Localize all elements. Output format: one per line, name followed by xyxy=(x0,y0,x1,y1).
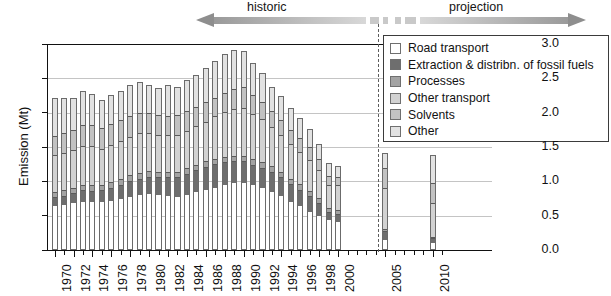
bar-segment-1998-1 xyxy=(316,203,322,215)
bar-segment-1977-0 xyxy=(118,199,124,250)
bar-segment-2005-4 xyxy=(382,168,388,189)
bar-segment-1986-5 xyxy=(203,68,209,102)
bar-1985 xyxy=(193,75,199,250)
bar-segment-1972-3 xyxy=(70,150,76,187)
bar-segment-1970-2 xyxy=(52,192,58,197)
bar-1982 xyxy=(165,85,171,250)
bar-segment-1979-1 xyxy=(137,179,143,195)
chart-figure: historic projection Emission (Mt) Road t… xyxy=(0,0,611,296)
bar-segment-1990-5 xyxy=(241,51,247,87)
y-axis-tick-label: 2.0 xyxy=(519,105,559,119)
bar-segment-2010-2 xyxy=(430,237,436,238)
bar-segment-1993-2 xyxy=(269,166,275,171)
bar-segment-1982-3 xyxy=(165,135,171,172)
bar-segment-1990-4 xyxy=(241,87,247,108)
bar-segment-1995-2 xyxy=(288,179,294,184)
bar-segment-1984-0 xyxy=(184,195,190,250)
bar-segment-1984-4 xyxy=(184,111,190,130)
historic-label: historic xyxy=(247,0,287,14)
bar-segment-1994-4 xyxy=(278,120,284,135)
bar-segment-1999-0 xyxy=(326,220,332,250)
bar-segment-1996-1 xyxy=(297,190,303,206)
bar-segment-1988-1 xyxy=(222,162,228,185)
bar-segment-1972-4 xyxy=(70,130,76,151)
bar-segment-1977-1 xyxy=(118,185,124,199)
legend-item-other: Other xyxy=(390,123,603,140)
x-axis-tick-label: 2010 xyxy=(438,264,452,292)
bar-segment-1973-4 xyxy=(80,125,86,146)
bar-segment-1999-1 xyxy=(326,212,332,220)
bar-segment-1990-1 xyxy=(241,161,247,182)
bar-segment-1984-2 xyxy=(184,168,190,173)
bar-segment-1973-3 xyxy=(80,146,86,185)
bar-segment-1981-0 xyxy=(155,195,161,250)
bar-segment-1991-2 xyxy=(250,159,256,164)
bar-segment-2000-1 xyxy=(335,214,341,222)
bar-segment-1997-3 xyxy=(307,160,313,191)
bar-segment-1998-4 xyxy=(316,159,322,171)
x-axis-tick-major xyxy=(55,250,56,257)
bar-segment-2005-1 xyxy=(382,231,388,241)
bar-segment-1984-3 xyxy=(184,131,190,169)
bar-segment-1972-2 xyxy=(70,188,76,193)
bar-segment-1999-2 xyxy=(326,208,332,212)
bar-segment-1977-4 xyxy=(118,120,124,141)
bar-segment-1992-0 xyxy=(259,188,265,250)
bar-segment-1995-3 xyxy=(288,144,294,178)
y-axis-tick-label: 3.0 xyxy=(519,36,559,50)
bar-segment-1981-5 xyxy=(155,88,161,115)
bar-segment-1995-1 xyxy=(288,184,294,202)
y-axis-tick xyxy=(42,147,48,148)
bar-segment-1980-3 xyxy=(146,133,152,171)
y-axis-tick-label: 0.0 xyxy=(519,242,559,256)
bar-segment-1982-0 xyxy=(165,196,171,250)
x-axis-tick-minor xyxy=(64,250,65,255)
bar-segment-1999-5 xyxy=(326,163,332,175)
bar-segment-1973-0 xyxy=(80,202,86,250)
y-axis-tick-label: 2.5 xyxy=(519,70,559,84)
bar-segment-1989-5 xyxy=(231,50,237,88)
legend-swatch-solvents xyxy=(390,109,401,120)
legend-swatch-other xyxy=(390,126,401,137)
x-axis-tick-label: 1980 xyxy=(154,264,168,292)
bar-segment-1981-2 xyxy=(155,172,161,177)
y-axis-title: Emission (Mt) xyxy=(16,107,31,186)
y-axis-tick xyxy=(42,112,48,113)
bar-segment-1996-4 xyxy=(297,138,303,152)
bar-segment-1975-2 xyxy=(99,185,105,190)
bar-1970 xyxy=(52,98,58,250)
bar-segment-1991-4 xyxy=(250,95,256,114)
bar-1992 xyxy=(259,73,265,250)
x-axis-tick-minor xyxy=(404,250,405,255)
bar-segment-1993-0 xyxy=(269,192,275,250)
bar-segment-1985-3 xyxy=(193,126,199,165)
bar-segment-1977-2 xyxy=(118,179,124,184)
x-axis-tick-minor xyxy=(83,250,84,255)
bar-segment-1996-0 xyxy=(297,206,303,250)
x-axis-tick-minor xyxy=(414,250,415,255)
y-axis-tick xyxy=(42,250,48,251)
bar-segment-2005-3 xyxy=(382,188,388,229)
x-axis-tick-minor xyxy=(196,250,197,255)
bar-segment-1979-5 xyxy=(137,82,143,114)
bar-segment-1998-0 xyxy=(316,216,322,250)
bar-segment-1971-5 xyxy=(61,98,67,133)
bar-segment-1990-3 xyxy=(241,108,247,156)
legend-label-processes: Processes xyxy=(408,75,465,87)
bar-segment-1978-3 xyxy=(127,137,133,175)
x-axis-tick-minor xyxy=(234,250,235,255)
y-axis-tick-label: 1.0 xyxy=(519,173,559,187)
x-axis-tick-minor xyxy=(357,250,358,255)
bar-segment-1980-5 xyxy=(146,85,152,113)
bar-segment-1976-4 xyxy=(108,124,114,145)
bar-segment-1978-4 xyxy=(127,116,133,137)
x-axis-tick-label: 2005 xyxy=(390,264,404,292)
bar-segment-1983-1 xyxy=(174,177,180,197)
legend-label-other: Other xyxy=(408,125,438,137)
x-axis-tick-label: 1974 xyxy=(97,264,111,292)
x-axis-tick-label: 1990 xyxy=(249,264,263,292)
bar-segment-1987-3 xyxy=(212,116,218,159)
x-axis-tick-minor xyxy=(423,250,424,255)
x-axis-tick-major xyxy=(338,250,339,257)
bar-segment-1985-2 xyxy=(193,165,199,170)
